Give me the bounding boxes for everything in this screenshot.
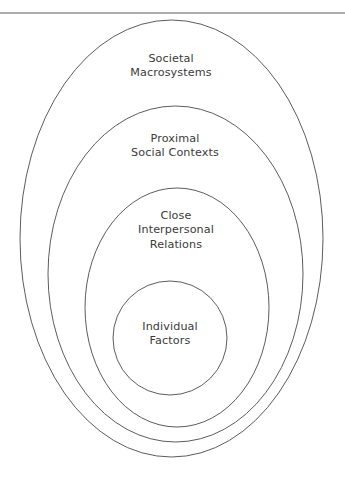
ring-outline-proximal-social-contexts bbox=[48, 106, 303, 442]
nested-ellipses-diagram bbox=[0, 0, 345, 478]
ring-outline-individual-factors bbox=[113, 281, 227, 395]
figure-root: Societal Macrosystems Proximal Social Co… bbox=[0, 0, 345, 478]
ring-outline-societal-macrosystems bbox=[20, 20, 323, 457]
ring-outline-close-interpersonal-relations bbox=[85, 188, 269, 427]
